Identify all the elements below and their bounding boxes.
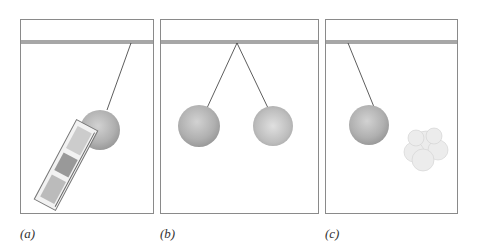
caption-b: (b) bbox=[160, 226, 175, 242]
string bbox=[107, 43, 131, 110]
cotton-fluff-icon bbox=[404, 128, 448, 171]
caption-c: (c) bbox=[325, 226, 339, 242]
panel-b-drawing bbox=[161, 20, 320, 215]
pendulum-ball-icon bbox=[349, 105, 389, 145]
panel-c-drawing bbox=[326, 20, 459, 215]
panel-a-drawing bbox=[21, 20, 155, 215]
panel-a bbox=[20, 19, 154, 214]
panel-b bbox=[160, 19, 319, 214]
pendulum-ball-left-icon bbox=[178, 105, 220, 147]
charged-rod-icon bbox=[34, 120, 97, 211]
pendulum-ball-right-icon bbox=[253, 106, 293, 146]
string-left bbox=[207, 43, 237, 108]
caption-a: (a) bbox=[20, 226, 35, 242]
string bbox=[348, 43, 374, 107]
panel-c bbox=[325, 19, 458, 214]
string-right bbox=[237, 43, 268, 108]
